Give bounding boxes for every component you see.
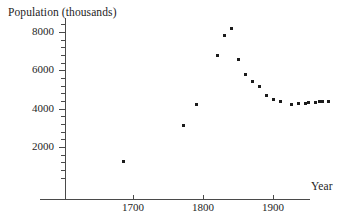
y-minor-tick — [61, 40, 66, 41]
data-point — [258, 85, 261, 88]
data-point — [265, 94, 268, 97]
y-minor-tick — [61, 139, 66, 140]
y-minor-tick — [61, 78, 66, 79]
data-point — [272, 98, 275, 101]
x-tick-1800 — [203, 195, 204, 200]
data-point — [182, 124, 185, 127]
y-minor-tick — [61, 116, 66, 117]
y-tick-label-6000: 6000 — [10, 63, 54, 75]
y-minor-tick — [61, 170, 66, 171]
y-minor-tick — [61, 63, 66, 64]
x-tick-label-1800: 1800 — [180, 201, 226, 213]
y-minor-tick — [61, 86, 66, 87]
x-tick-1700 — [133, 195, 134, 200]
x-tick-1900 — [273, 195, 274, 200]
y-minor-tick — [61, 24, 66, 25]
x-tick-label-1900: 1900 — [250, 201, 296, 213]
y-minor-tick — [61, 155, 66, 156]
data-point — [321, 100, 324, 103]
data-point — [307, 101, 310, 104]
y-minor-tick — [61, 132, 66, 133]
y-minor-tick — [61, 47, 66, 48]
data-point — [279, 100, 282, 103]
y-minor-tick — [61, 93, 66, 94]
x-axis-title: Year — [311, 180, 333, 192]
y-minor-tick — [61, 124, 66, 125]
y-minor-tick — [61, 162, 66, 163]
y-minor-tick — [61, 55, 66, 56]
data-point — [244, 73, 247, 76]
data-point — [237, 58, 240, 61]
y-tick-4000 — [59, 109, 66, 110]
data-point — [195, 103, 198, 106]
data-point — [251, 80, 254, 83]
y-minor-tick — [61, 101, 66, 102]
scatter-plot: Population (thousands) Year 200040006000… — [0, 0, 354, 217]
y-tick-2000 — [59, 147, 66, 148]
data-point — [223, 34, 226, 37]
data-point — [122, 160, 125, 163]
data-point — [230, 27, 233, 30]
x-axis-line — [40, 199, 310, 200]
data-point — [290, 103, 293, 106]
y-tick-label-2000: 2000 — [10, 140, 54, 152]
x-tick-label-1700: 1700 — [110, 201, 156, 213]
data-point — [297, 102, 300, 105]
data-point — [216, 54, 219, 57]
y-tick-6000 — [59, 70, 66, 71]
y-axis-title: Population (thousands) — [8, 6, 117, 18]
y-minor-tick — [61, 178, 66, 179]
data-point — [327, 100, 330, 103]
y-tick-8000 — [59, 32, 66, 33]
y-tick-label-8000: 8000 — [10, 25, 54, 37]
y-tick-label-4000: 4000 — [10, 102, 54, 114]
